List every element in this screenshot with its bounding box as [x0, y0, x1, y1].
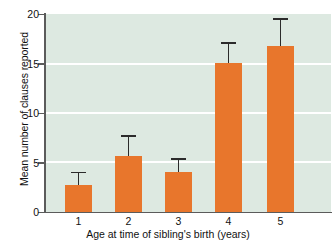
y-tick-label-10: 10	[17, 108, 39, 118]
y-tick-label-20: 20	[17, 9, 39, 19]
error-bar-stem-5	[280, 20, 282, 46]
error-bar-cap-3	[171, 158, 186, 160]
error-bar-cap-4	[221, 42, 236, 44]
x-tick-label-5: 5	[261, 215, 301, 227]
error-bar-stem-1	[78, 173, 80, 184]
bar-category-3[interactable]	[165, 172, 192, 212]
error-bar-cap-2	[121, 135, 136, 137]
y-tick-label-0: 0	[17, 207, 39, 217]
error-bar-cap-5	[273, 18, 288, 20]
y-tick-label-15: 15	[17, 59, 39, 69]
plot-area	[45, 14, 331, 212]
y-axis-line	[44, 13, 46, 213]
error-bar-stem-2	[128, 137, 130, 156]
bar-category-5[interactable]	[267, 46, 294, 212]
x-tick-label-4: 4	[209, 215, 249, 227]
x-tick-label-3: 3	[159, 215, 199, 227]
bar-category-4[interactable]	[215, 63, 242, 213]
bar-category-1[interactable]	[65, 185, 92, 212]
x-tick-label-1: 1	[59, 215, 99, 227]
x-axis-line	[40, 212, 332, 214]
error-bar-stem-3	[178, 160, 180, 173]
error-bar-stem-4	[228, 44, 230, 63]
x-tick-label-2: 2	[109, 215, 149, 227]
x-axis-title: Age at time of sibling's birth (years)	[0, 228, 336, 240]
bar-chart-figure: Mean number of clauses reported	[0, 0, 336, 242]
bar-category-2[interactable]	[115, 156, 142, 212]
error-bar-cap-1	[71, 172, 86, 174]
y-tick-label-5: 5	[17, 158, 39, 168]
y-tick-labels: 20 15 10 5 0	[17, 0, 39, 242]
